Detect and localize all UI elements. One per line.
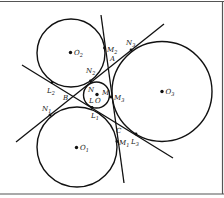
point-l2 (51, 81, 54, 84)
point-m3 (110, 96, 113, 99)
label-n1: N1 (41, 105, 51, 114)
label-l: L (88, 97, 94, 105)
geometry-diagram: O2 O3 O1 O A B C N M L M2 N3 N2 L2 M3 N1… (0, 0, 224, 198)
point-m2 (103, 47, 106, 50)
point-n1 (49, 114, 52, 117)
center-dot-o3 (160, 90, 163, 93)
point-l3 (135, 133, 138, 136)
center-dot-o1 (75, 146, 78, 149)
label-n3: N3 (125, 39, 135, 48)
label-o2: O2 (74, 49, 83, 58)
point-n3 (130, 49, 133, 52)
label-m2: M2 (106, 46, 117, 55)
label-o3: O3 (166, 88, 175, 97)
label-b: B (62, 94, 68, 102)
label-m3: M3 (113, 94, 124, 103)
label-a: A (109, 55, 115, 63)
point-n2 (89, 80, 92, 83)
label-m: M (101, 89, 110, 97)
center-dot-o (95, 93, 98, 96)
label-m1: M1 (118, 139, 129, 148)
center-dot-o2 (69, 51, 72, 54)
label-c: C (116, 127, 122, 135)
label-l2: L2 (46, 87, 55, 96)
point-m1 (116, 140, 119, 143)
point-l1 (91, 106, 94, 109)
label-o1: O1 (80, 144, 89, 153)
label-o: O (95, 97, 101, 105)
label-n: N (87, 86, 95, 94)
label-n2: N2 (85, 67, 95, 76)
label-l3: L3 (130, 138, 139, 147)
